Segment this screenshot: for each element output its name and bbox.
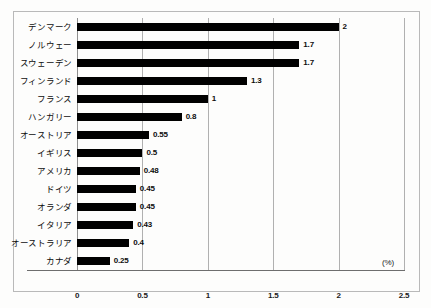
category-label: オランダ <box>0 198 72 216</box>
bar-value-label: 0.45 <box>136 198 155 216</box>
bar-row: ハンガリー0.8 <box>77 108 404 126</box>
gridline-2.5 <box>404 18 405 270</box>
chart-screenshot: デンマーク2ノルウェー1.7スウェーデン1.7フィンランド1.3フランス1ハンガ… <box>0 0 431 308</box>
category-label: ハンガリー <box>0 108 72 126</box>
bar <box>77 149 142 157</box>
bar-value-label: 1.7 <box>299 36 314 54</box>
bar-row: アメリカ0.48 <box>77 162 404 180</box>
bar <box>77 239 129 247</box>
category-label: フィンランド <box>0 72 72 90</box>
category-label: デンマーク <box>0 18 72 36</box>
bar-row: イギリス0.5 <box>77 144 404 162</box>
bar-row: オーストリア0.55 <box>77 126 404 144</box>
category-label: ノルウェー <box>0 36 72 54</box>
bar <box>77 23 339 31</box>
bar-row: イタリア0.43 <box>77 216 404 234</box>
bar-row: オーストラリア0.4 <box>77 234 404 252</box>
bar <box>77 59 299 67</box>
bar <box>77 77 247 85</box>
bar-value-label: 0.55 <box>149 126 168 144</box>
bar-value-label: 0.43 <box>133 216 152 234</box>
bar-row: フランス1 <box>77 90 404 108</box>
bar-value-label: 1.3 <box>247 72 262 90</box>
bar-row: スウェーデン1.7 <box>77 54 404 72</box>
bar-value-label: 1 <box>208 90 216 108</box>
bar-value-label: 2 <box>339 18 347 36</box>
category-label: アメリカ <box>0 162 72 180</box>
x-axis-line <box>27 270 405 271</box>
bar <box>77 167 140 175</box>
category-label: スウェーデン <box>0 54 72 72</box>
x-tick-label: 2 <box>336 291 340 300</box>
bar <box>77 131 149 139</box>
bar <box>77 41 299 49</box>
category-label: イギリス <box>0 144 72 162</box>
bar <box>77 221 133 229</box>
bar-row: ドイツ0.45 <box>77 180 404 198</box>
bar-row: デンマーク2 <box>77 18 404 36</box>
category-label: フランス <box>0 90 72 108</box>
bar-value-label: 0.45 <box>136 180 155 198</box>
category-label: カナダ <box>0 252 72 270</box>
x-tick-label: 1 <box>206 291 210 300</box>
category-label: ドイツ <box>0 180 72 198</box>
bar-row: フィンランド1.3 <box>77 72 404 90</box>
x-tick-label: 2.5 <box>399 291 410 300</box>
category-label: オーストラリア <box>0 234 72 252</box>
bar-value-label: 0.25 <box>110 252 129 270</box>
x-tick-label: 0.5 <box>137 291 148 300</box>
bar-value-label: 0.48 <box>140 162 159 180</box>
bar-row: オランダ0.45 <box>77 198 404 216</box>
bar <box>77 113 182 121</box>
bar <box>77 257 110 265</box>
bar-value-label: 1.7 <box>299 54 314 72</box>
bar-row: ノルウェー1.7 <box>77 36 404 54</box>
bar-value-label: 0.4 <box>129 234 144 252</box>
x-axis-unit-label: (%) <box>382 258 394 267</box>
category-label: イタリア <box>0 216 72 234</box>
x-tick-label: 1.5 <box>268 291 279 300</box>
bar <box>77 95 208 103</box>
plot-area: デンマーク2ノルウェー1.7スウェーデン1.7フィンランド1.3フランス1ハンガ… <box>77 18 404 270</box>
x-tick-label: 0 <box>75 291 79 300</box>
bar-value-label: 0.5 <box>142 144 157 162</box>
category-label: オーストリア <box>0 126 72 144</box>
bar <box>77 185 136 193</box>
bar-row: カナダ0.25 <box>77 252 404 270</box>
bar-value-label: 0.8 <box>182 108 197 126</box>
bar <box>77 203 136 211</box>
